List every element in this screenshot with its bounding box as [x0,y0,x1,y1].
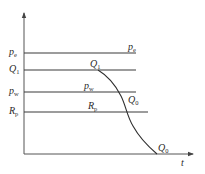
y-label-pw: pw [9,86,19,96]
y-label-q1: Q1 [9,64,19,74]
line-label-rp: Rp [88,101,97,111]
line-label-q1: Q1 [90,59,100,69]
y-label-rp: Rp [9,106,18,116]
diagram-canvas [0,0,205,174]
line-label-pw: pw [84,81,94,91]
line-label-q0-mid: Q0 [128,95,138,105]
y-label-pe: pe [9,47,17,57]
x-axis-label: t [181,158,184,168]
line-label-q0-end: Q0 [158,143,168,153]
line-label-pe: pe [128,42,136,52]
